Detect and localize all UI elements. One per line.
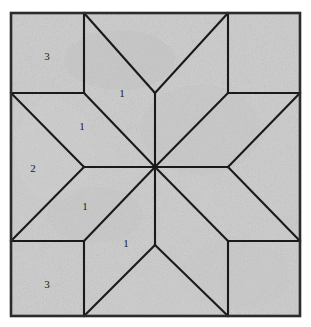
label-1-upper-left: 1 <box>79 120 85 132</box>
label-2-left: 2 <box>30 162 36 174</box>
quilt-block-figure: 3112113 <box>0 0 311 327</box>
fabric-shade-patch <box>65 30 175 90</box>
fabric-shade-patch <box>140 85 260 175</box>
fabric-highlight-patch <box>15 100 95 200</box>
label-1-top: 1 <box>119 87 125 99</box>
label-1-lower-left: 1 <box>82 200 88 212</box>
label-3-top-left: 3 <box>44 50 50 62</box>
label-3-bottom-left: 3 <box>44 278 50 290</box>
quilt-block-diagram: 3112113 <box>0 0 311 327</box>
label-1-bottom: 1 <box>123 237 129 249</box>
